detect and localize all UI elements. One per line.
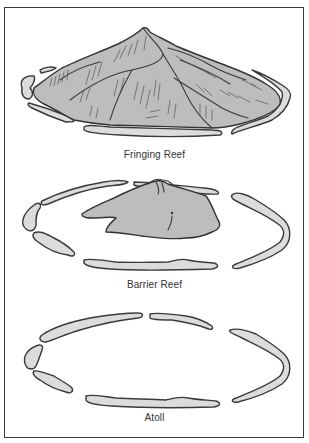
atoll-right — [230, 329, 290, 402]
atoll-lower-left — [33, 371, 72, 393]
barrier-reef-illustration — [23, 179, 290, 270]
barrier-reef-lower-left — [33, 232, 74, 256]
barrier-reef-label: Barrier Reef — [0, 279, 309, 290]
fringing-reef-label: Fringing Reef — [0, 149, 309, 160]
barrier-reef-left-cap — [23, 203, 41, 231]
atoll-left-cap — [24, 345, 42, 369]
stream-source-dot — [171, 212, 173, 214]
atoll-bottom — [86, 395, 220, 407]
reef-formation-diagram — [0, 0, 309, 443]
fringing-reef-left-cap — [21, 76, 34, 99]
fringing-reef-island — [33, 28, 280, 128]
atoll-upper-left — [40, 313, 143, 342]
barrier-reef-bottom — [84, 259, 218, 270]
atoll-label: Atoll — [0, 412, 309, 423]
atoll-illustration — [24, 313, 289, 408]
fringing-reef-upper-left — [40, 67, 56, 73]
fringing-reef-illustration — [21, 28, 290, 137]
atoll-upper-right — [150, 313, 213, 329]
barrier-reef-right — [231, 193, 289, 268]
